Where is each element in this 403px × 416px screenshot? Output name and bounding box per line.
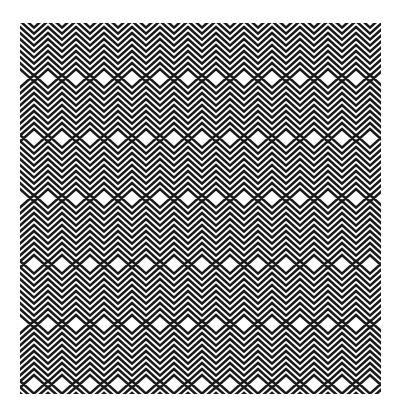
- zigzag-pattern: [20, 23, 381, 394]
